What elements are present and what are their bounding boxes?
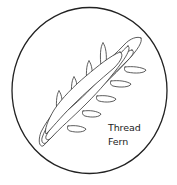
label-line-1: Thread (108, 123, 141, 133)
label-line-2: Fern (108, 137, 128, 147)
fern-illustration (0, 0, 177, 185)
leaflet-right-4 (82, 111, 101, 117)
leaflet-right-1 (124, 67, 146, 73)
leaflet-right-5 (67, 126, 86, 132)
leaflet-right-3 (96, 96, 116, 102)
leaflet-right-2 (110, 81, 131, 87)
